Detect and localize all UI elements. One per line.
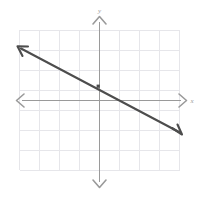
coordinate-plane-figure: x y bbox=[0, 0, 204, 202]
x-axis-label: x bbox=[189, 97, 194, 105]
line-arrow-lower-right bbox=[172, 125, 182, 135]
y-axis: y bbox=[93, 7, 106, 188]
x-axis: x bbox=[17, 94, 195, 107]
y-axis-label: y bbox=[97, 7, 102, 15]
y-intercept-point-marker bbox=[97, 85, 100, 88]
graph-canvas: x y bbox=[0, 0, 204, 202]
